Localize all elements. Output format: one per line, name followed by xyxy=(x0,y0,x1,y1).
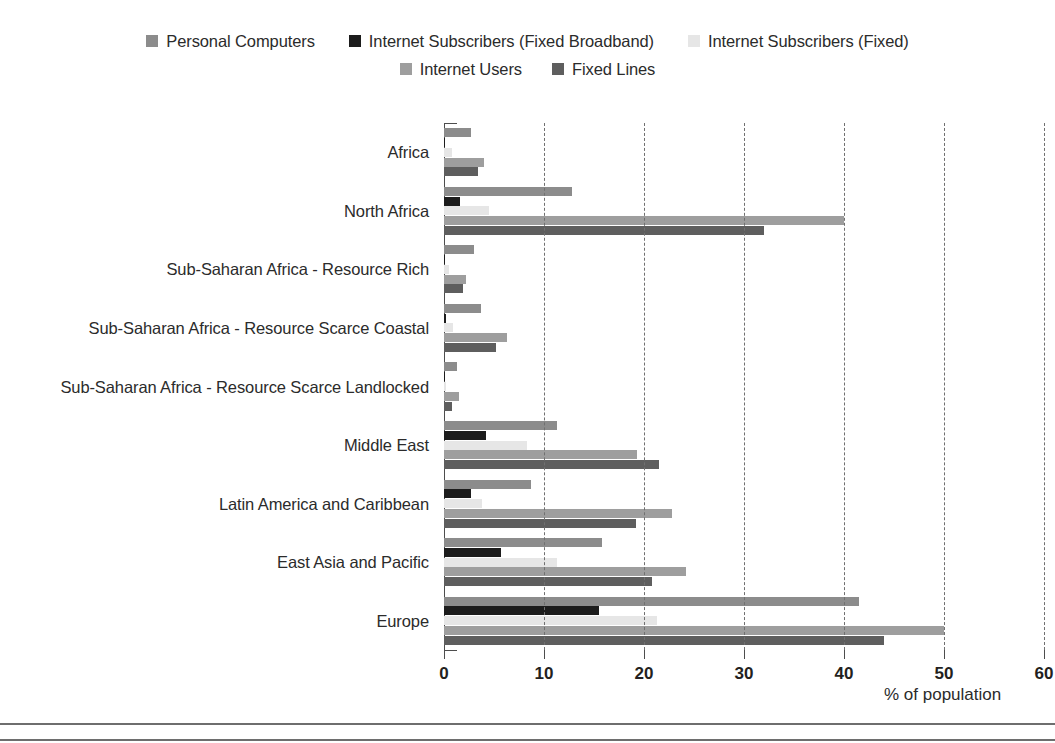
bar xyxy=(444,245,474,254)
bar xyxy=(444,382,446,391)
bar xyxy=(444,431,486,440)
bar xyxy=(444,138,445,147)
legend-item[interactable]: Internet Subscribers (Fixed Broadband) xyxy=(349,33,654,50)
x-axis-tick xyxy=(944,650,945,659)
chart-legend: Personal ComputersInternet Subscribers (… xyxy=(0,33,1055,77)
legend-item[interactable]: Personal Computers xyxy=(146,33,315,50)
bar xyxy=(444,167,478,176)
x-axis-tick-label: 30 xyxy=(735,664,754,684)
category-label: Sub-Saharan Africa - Resource Rich xyxy=(166,260,429,279)
legend-swatch-icon xyxy=(349,35,361,47)
x-axis-tick xyxy=(1044,650,1045,659)
legend-swatch-icon xyxy=(552,63,564,75)
legend-row-2: Internet UsersFixed Lines xyxy=(0,61,1055,78)
legend-item-label: Internet Users xyxy=(420,61,522,78)
legend-row-1: Personal ComputersInternet Subscribers (… xyxy=(0,33,1055,50)
bar xyxy=(444,499,482,508)
footer-rule-top xyxy=(0,723,1055,725)
bar xyxy=(444,323,453,332)
bar xyxy=(444,148,452,157)
bar xyxy=(444,606,599,615)
bar xyxy=(444,538,602,547)
x-axis-tick xyxy=(444,650,445,659)
bar xyxy=(444,158,484,167)
bar xyxy=(444,509,672,518)
bar xyxy=(444,626,944,635)
plot-area: AfricaNorth AfricaSub-Saharan Africa - R… xyxy=(0,120,1055,665)
legend-item[interactable]: Internet Subscribers (Fixed) xyxy=(688,33,909,50)
footer-rule-bottom xyxy=(0,739,1055,741)
bar xyxy=(444,441,527,450)
chart-axes: 0102030405060 xyxy=(444,123,1044,650)
gridline xyxy=(944,123,945,650)
category-label: North Africa xyxy=(344,201,429,220)
category-label: Middle East xyxy=(344,436,429,455)
category-axis-labels: AfricaNorth AfricaSub-Saharan Africa - R… xyxy=(0,120,437,650)
x-axis-tick xyxy=(644,650,645,659)
bar xyxy=(444,284,463,293)
bar xyxy=(444,489,471,498)
x-axis-tick xyxy=(544,650,545,659)
x-axis-title: % of population xyxy=(884,685,1001,705)
x-axis-tick xyxy=(744,650,745,659)
legend-item-label: Fixed Lines xyxy=(572,61,655,78)
x-axis-tick-label: 60 xyxy=(1035,664,1054,684)
category-label: East Asia and Pacific xyxy=(277,553,429,572)
category-label: Sub-Saharan Africa - Resource Scarce Lan… xyxy=(60,377,429,396)
bar xyxy=(444,304,481,313)
bar xyxy=(444,362,457,371)
x-axis-tick-label: 10 xyxy=(535,664,554,684)
gridline xyxy=(544,123,545,650)
bar xyxy=(444,402,452,411)
bar xyxy=(444,480,531,489)
category-label: Sub-Saharan Africa - Resource Scarce Coa… xyxy=(89,318,429,337)
legend-item-label: Personal Computers xyxy=(166,33,315,50)
bar xyxy=(444,636,884,645)
bar xyxy=(444,128,471,137)
bar xyxy=(444,333,507,342)
bar xyxy=(444,616,657,625)
x-axis-tick-label: 50 xyxy=(935,664,954,684)
gridline xyxy=(744,123,745,650)
legend-item-label: Internet Subscribers (Fixed) xyxy=(708,33,909,50)
category-label: Africa xyxy=(387,143,429,162)
bar xyxy=(444,450,637,459)
x-axis-tick xyxy=(844,650,845,659)
bar xyxy=(444,255,445,264)
bar xyxy=(444,226,764,235)
bar xyxy=(444,421,557,430)
gridline xyxy=(644,123,645,650)
bar xyxy=(444,519,636,528)
gridline xyxy=(844,123,845,650)
bar xyxy=(444,567,686,576)
bar xyxy=(444,577,652,586)
legend-swatch-icon xyxy=(688,35,700,47)
legend-item[interactable]: Internet Users xyxy=(400,61,522,78)
bar xyxy=(444,314,446,323)
x-axis-tick-label: 20 xyxy=(635,664,654,684)
bar xyxy=(444,558,557,567)
bar xyxy=(444,460,659,469)
bar xyxy=(444,275,466,284)
bar xyxy=(444,206,489,215)
legend-swatch-icon xyxy=(146,35,158,47)
y-axis-cap-bottom xyxy=(444,650,457,651)
bar xyxy=(444,343,496,352)
category-label: Europe xyxy=(376,611,429,630)
bar xyxy=(444,597,859,606)
chart-page: Personal ComputersInternet Subscribers (… xyxy=(0,0,1055,743)
legend-item-label: Internet Subscribers (Fixed Broadband) xyxy=(369,33,654,50)
bar xyxy=(444,187,572,196)
bar xyxy=(444,372,445,381)
x-axis-tick-label: 0 xyxy=(439,664,448,684)
gridline xyxy=(1044,123,1045,650)
bar xyxy=(444,392,459,401)
x-axis-tick-label: 40 xyxy=(835,664,854,684)
bar xyxy=(444,197,460,206)
bar xyxy=(444,265,449,274)
category-label: Latin America and Caribbean xyxy=(219,494,429,513)
bar xyxy=(444,548,501,557)
legend-swatch-icon xyxy=(400,63,412,75)
legend-item[interactable]: Fixed Lines xyxy=(552,61,655,78)
